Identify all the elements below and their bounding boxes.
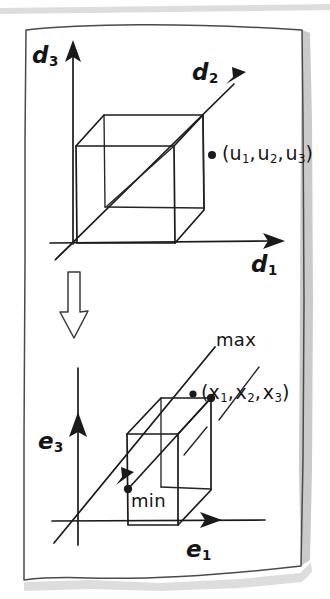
leader-line-x	[184, 427, 207, 455]
cube-d-right-face	[175, 115, 204, 243]
paper-top-edge	[0, 4, 330, 14]
transformation-arrow-shape	[60, 272, 88, 338]
axis-label-d1: d1	[251, 253, 277, 277]
axis-label-e3: e3	[38, 430, 63, 454]
box-e-front-face	[127, 434, 178, 525]
cube-d-back-edge-vertical	[104, 115, 105, 207]
paper-shadow-right	[299, 30, 313, 566]
axis-e2-arrowhead	[116, 467, 134, 485]
axis-e1-line	[52, 520, 265, 521]
box-e-back-edge-bottom	[161, 487, 211, 489]
corner-label-min: min	[131, 492, 166, 510]
point-dot-x	[189, 390, 196, 397]
axis-d2-arrowhead	[226, 67, 246, 84]
axis-label-d2: d2	[192, 61, 218, 85]
cube-d-top-face	[76, 115, 203, 146]
corner-label-max: max	[216, 331, 256, 349]
handdrawn-figure: d3 d2 d1 (u1, u2, u3) e3 e1 max min (x1,…	[0, 0, 330, 599]
box-e-diagonal-min-max	[128, 398, 211, 489]
point-label-u: (u1, u2, u3)	[222, 144, 313, 166]
point-label-x: (x1, x2, x3)	[201, 383, 289, 405]
cube-d-front-face	[76, 146, 175, 243]
point-dot-u	[208, 151, 216, 159]
axis-label-d3: d3	[32, 44, 58, 68]
cube-d-diagonal	[107, 147, 173, 206]
axis-label-e1: e1	[186, 538, 211, 562]
cube-d-back-edge-bottom	[105, 207, 204, 208]
